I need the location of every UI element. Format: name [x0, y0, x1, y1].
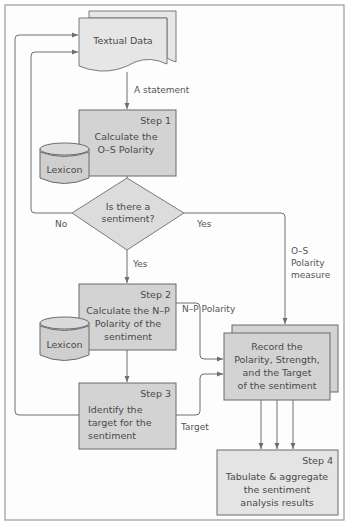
textual-data-node: Textual Data	[79, 11, 176, 71]
step1-number: Step 1	[140, 115, 171, 126]
step2-line3: sentiment	[104, 331, 152, 342]
textual-data-label: Textual Data	[92, 35, 152, 46]
step4-number: Step 4	[302, 455, 333, 466]
step4-line3: analysis results	[240, 497, 313, 508]
step3-node: Step 3 Identify the target for the senti…	[79, 383, 176, 449]
step4-node: Step 4 Tabulate & aggregate the sentimen…	[217, 450, 338, 515]
sentiment-analysis-flowchart: Textual Data A statement Step 1 Calculat…	[0, 0, 349, 525]
step1-line1: Calculate the	[95, 131, 158, 142]
step4-line2: the sentiment	[244, 484, 311, 495]
step3-line2: target for the	[88, 417, 152, 428]
record-line1: Record the	[251, 341, 303, 352]
lexicon1-label: Lexicon	[46, 164, 82, 175]
edge-label-target: Target	[180, 422, 209, 432]
step3-number: Step 3	[140, 388, 171, 399]
edge-label-os-line3: measure	[291, 270, 331, 280]
edge-label-np-polarity: N–P Polarity	[182, 304, 236, 314]
record-node: Record the Polarity, Strength, and the T…	[224, 325, 338, 400]
step2-line1: Calculate the N–P	[86, 305, 170, 316]
step2-number: Step 2	[140, 289, 171, 300]
step2-node: Step 2 Calculate the N–P Polarity of the…	[79, 284, 176, 350]
record-line3: and the Target	[243, 367, 312, 378]
step3-line1: Identify the	[88, 404, 143, 415]
edge-label-os-line2: Polarity	[291, 258, 325, 268]
lexicon2-database-icon: Lexicon	[40, 317, 89, 361]
edge-label-no: No	[55, 219, 68, 229]
lexicon2-label: Lexicon	[46, 339, 82, 350]
decision-line2: sentiment?	[101, 213, 154, 224]
step2-line2: Polarity of the	[95, 318, 161, 329]
edge-label-os-line1: O–S	[291, 246, 309, 256]
edge-label-yes-down: Yes	[132, 259, 148, 269]
step1-node: Step 1 Calculate the O–S Polarity	[79, 110, 176, 176]
step4-line1: Tabulate & aggregate	[225, 471, 329, 482]
decision-line1: Is there a	[106, 201, 151, 212]
record-line4: of the sentiment	[238, 380, 317, 391]
edge-label-a-statement: A statement	[134, 85, 190, 95]
step3-line3: sentiment	[88, 430, 136, 441]
step1-line2: O–S Polarity	[98, 144, 155, 155]
lexicon1-database-icon: Lexicon	[40, 143, 89, 184]
edge-label-yes-right: Yes	[196, 219, 212, 229]
record-line2: Polarity, Strength,	[234, 354, 320, 365]
